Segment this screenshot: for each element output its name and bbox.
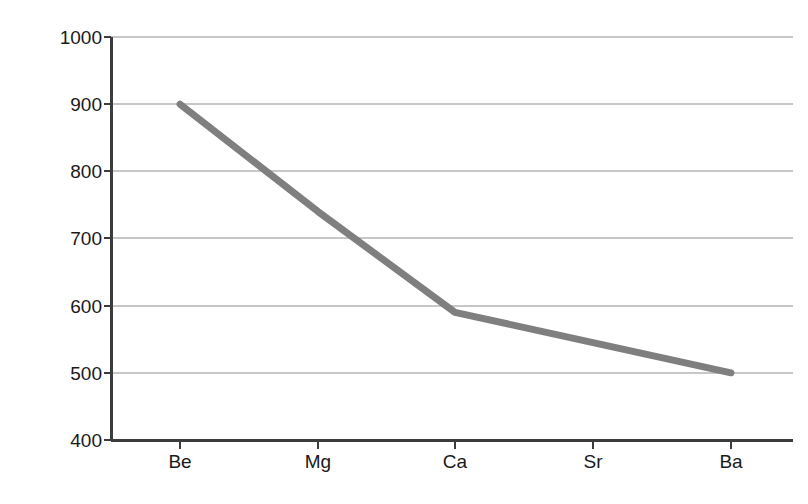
x-tick-label-mg: Mg	[273, 452, 363, 471]
y-tick-mark-group	[104, 37, 111, 440]
x-tick-label-ca: Ca	[410, 452, 500, 471]
gridline-group	[111, 37, 793, 373]
chart-container: IE1 / kJ mol−1 1000 900 800 700 600 500 …	[0, 0, 808, 504]
plot-area	[0, 0, 808, 504]
axis-group	[111, 37, 793, 441]
x-tick-label-be: Be	[135, 452, 225, 471]
x-tick-label-sr: Sr	[548, 452, 638, 471]
x-tick-label-ba: Ba	[686, 452, 776, 471]
